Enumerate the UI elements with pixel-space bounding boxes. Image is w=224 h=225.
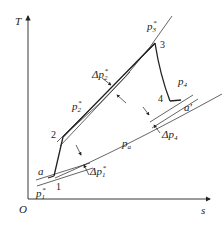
point-3-label: 3: [160, 39, 165, 50]
dp4-arrow-out: [154, 125, 160, 133]
process-2-3: [63, 43, 155, 137]
loss-arrows: [76, 78, 160, 175]
dp2-label: Δp2*: [91, 67, 108, 82]
t-s-diagram: T s O 1 2 3 4: [0, 0, 224, 225]
point-1-label: 1: [56, 181, 61, 192]
dp1-arrow-in: [76, 145, 81, 155]
isobar-p3: [70, 16, 172, 130]
process-4-a-prime: [170, 100, 181, 101]
point-a-prime-label: a′: [184, 101, 193, 113]
origin-label: O: [19, 203, 27, 215]
dp1-label: Δp1*: [89, 164, 106, 179]
p4-label: p4: [177, 75, 188, 89]
s-axis-label: s: [201, 204, 205, 216]
p1-label: p1*: [35, 186, 46, 201]
cycle-path: [48, 43, 181, 178]
p2-label: p2*: [71, 99, 82, 114]
dp2-arrow-out: [117, 95, 126, 103]
dp4-label: Δp4: [161, 128, 178, 142]
dp1-arrow-out: [84, 165, 89, 175]
point-2-label: 2: [51, 129, 56, 140]
t-axis-label: T: [15, 15, 22, 27]
point-labels: 1 2 3 4 a a′: [38, 39, 193, 192]
point-a-label: a: [38, 165, 44, 177]
p3-label: p3*: [146, 19, 157, 34]
pa-label: pa: [121, 137, 132, 151]
point-4-label: 4: [158, 93, 163, 104]
dp4-arrow-in: [143, 107, 149, 115]
process-1-2: [54, 137, 63, 176]
isobars: [36, 16, 222, 186]
